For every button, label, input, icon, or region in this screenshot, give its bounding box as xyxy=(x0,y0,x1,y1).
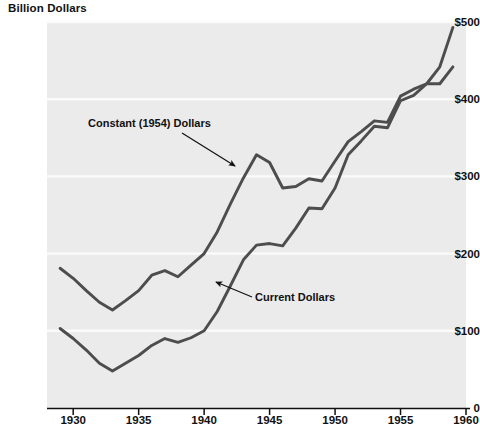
x-axis-tick-label: 1940 xyxy=(191,414,217,426)
y-axis-tick-label: 0 xyxy=(436,402,480,414)
x-axis-tick-label: 1950 xyxy=(322,414,348,426)
x-axis-tick-label: 1960 xyxy=(453,414,479,426)
x-axis-tick-label: 1935 xyxy=(126,414,152,426)
chart-container: Billion Dollars 0$100$200$300$400$500 19… xyxy=(0,0,480,442)
series-label-current-dollars: Current Dollars xyxy=(255,291,335,303)
y-axis-tick-label: $400 xyxy=(436,93,480,105)
y-axis-tick-label: $300 xyxy=(436,170,480,182)
y-axis-tick-label: $100 xyxy=(436,325,480,337)
series-label-constant-dollars: Constant (1954) Dollars xyxy=(88,117,211,129)
y-axis-tick-label: $200 xyxy=(436,248,480,260)
plot-background xyxy=(47,22,466,408)
x-axis-tick-label: 1945 xyxy=(257,414,283,426)
y-axis-tick-label: $500 xyxy=(436,16,480,28)
chart-axis-title: Billion Dollars xyxy=(8,2,87,14)
plot-area xyxy=(0,0,480,442)
x-axis-tick-label: 1955 xyxy=(388,414,414,426)
x-axis-tick-label: 1930 xyxy=(60,414,86,426)
